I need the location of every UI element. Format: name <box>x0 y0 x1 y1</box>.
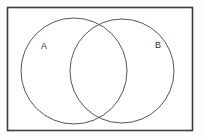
universal-set-rectangle <box>8 8 193 131</box>
venn-diagram-canvas: A B <box>0 0 205 139</box>
venn-diagram-figure: A B <box>0 0 205 139</box>
set-label-a: A <box>41 41 47 51</box>
set-label-b: B <box>155 40 161 50</box>
